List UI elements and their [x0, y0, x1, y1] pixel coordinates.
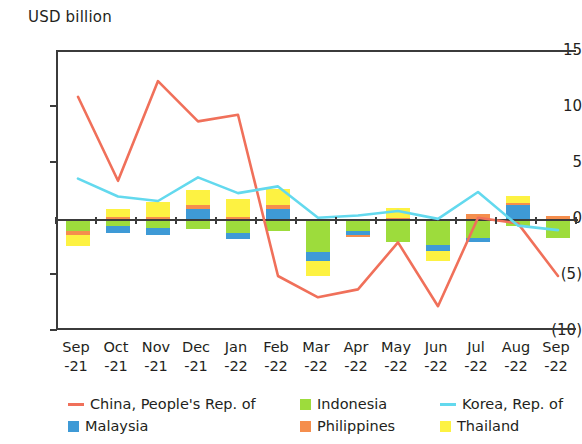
- x-axis-tick-mark: [575, 217, 577, 224]
- x-axis-tick-mark: [375, 217, 377, 224]
- x-axis-tick-month: Jul: [464, 338, 488, 357]
- x-axis-tick-mark: [95, 217, 97, 224]
- x-axis-tick-month: Jan: [224, 338, 248, 357]
- x-axis-tick-label: Jan-22: [224, 338, 248, 376]
- x-axis-tick-month: Jun: [424, 338, 448, 357]
- x-axis-tick-month: Oct: [103, 338, 128, 357]
- x-axis-tick-month: Feb: [263, 338, 289, 357]
- plot-inner: [58, 52, 576, 328]
- legend-item-label: Philippines: [317, 418, 395, 434]
- chart-container: USD billion 151050(5)(10) Sep-21Oct-21No…: [0, 0, 582, 444]
- x-axis-tick-mark: [335, 217, 337, 224]
- legend-item[interactable]: Thailand: [440, 418, 519, 434]
- x-axis-tick-mark: [415, 217, 417, 224]
- x-axis-tick-label: Feb-22: [263, 338, 289, 376]
- x-axis-tick-label: Jun-22: [424, 338, 448, 376]
- x-axis-tick-year: -21: [142, 357, 170, 376]
- x-axis-tick-year: -21: [182, 357, 210, 376]
- legend-box-swatch-icon: [300, 399, 311, 410]
- legend-item[interactable]: Philippines: [300, 418, 395, 434]
- x-axis-tick-year: -21: [62, 357, 89, 376]
- x-axis-tick-month: Sep: [542, 338, 569, 357]
- x-axis-tick-mark: [295, 217, 297, 224]
- x-axis-tick-year: -22: [302, 357, 329, 376]
- legend-line-swatch-icon: [68, 403, 84, 406]
- line-series: [78, 177, 558, 230]
- x-axis-tick-mark: [175, 217, 177, 224]
- x-axis-tick-month: Dec: [182, 338, 210, 357]
- legend-item-label: Korea, Rep. of: [462, 396, 563, 412]
- x-axis-tick-label: Nov-21: [142, 338, 170, 376]
- legend-box-swatch-icon: [300, 421, 311, 432]
- x-axis-tick-label: May-22: [381, 338, 411, 376]
- plot-area: [56, 50, 576, 330]
- x-axis-tick-label: Aug-22: [502, 338, 530, 376]
- x-axis-tick-year: -22: [542, 357, 569, 376]
- x-axis-tick-year: -22: [464, 357, 488, 376]
- x-axis-tick-label: Apr-22: [343, 338, 368, 376]
- legend-item[interactable]: Korea, Rep. of: [440, 396, 563, 412]
- x-axis-tick-year: -21: [103, 357, 128, 376]
- x-axis-tick-label: Jul-22: [464, 338, 488, 376]
- legend-item-label: Thailand: [457, 418, 519, 434]
- line-series: [78, 81, 558, 306]
- x-axis-tick-year: -22: [424, 357, 448, 376]
- chart-legend: China, People's Rep. ofIndonesiaKorea, R…: [0, 396, 582, 444]
- legend-box-swatch-icon: [68, 421, 79, 432]
- x-axis-tick-month: Mar: [302, 338, 329, 357]
- x-axis-tick-label: Oct-21: [103, 338, 128, 376]
- x-axis-tick-mark: [135, 217, 137, 224]
- x-axis-tick-label: Sep-22: [542, 338, 569, 376]
- x-axis-tick-mark: [535, 217, 537, 224]
- x-axis-tick-year: -22: [381, 357, 411, 376]
- line-series-overlay: [58, 52, 578, 332]
- legend-box-swatch-icon: [440, 421, 451, 432]
- legend-line-swatch-icon: [440, 403, 456, 406]
- legend-row: MalaysiaPhilippinesThailand: [0, 418, 582, 440]
- x-axis-tick-label: Sep-21: [62, 338, 89, 376]
- x-axis-tick-mark: [215, 217, 217, 224]
- x-axis-tick-mark: [55, 217, 57, 224]
- x-axis-tick-month: May: [381, 338, 411, 357]
- x-axis-tick-label: Mar-22: [302, 338, 329, 376]
- x-axis-tick-year: -22: [263, 357, 289, 376]
- legend-item[interactable]: Malaysia: [68, 418, 148, 434]
- x-axis-tick-month: Sep: [62, 338, 89, 357]
- x-axis-tick-mark: [455, 217, 457, 224]
- legend-item-label: Indonesia: [317, 396, 387, 412]
- x-axis-tick-month: Nov: [142, 338, 170, 357]
- legend-item-label: China, People's Rep. of: [90, 396, 256, 412]
- legend-item[interactable]: Indonesia: [300, 396, 387, 412]
- x-axis-tick-year: -22: [224, 357, 248, 376]
- x-axis-tick-month: Apr: [343, 338, 368, 357]
- legend-item-label: Malaysia: [85, 418, 148, 434]
- x-axis-tick-mark: [255, 217, 257, 224]
- x-axis-tick-label: Dec-21: [182, 338, 210, 376]
- legend-item[interactable]: China, People's Rep. of: [68, 396, 256, 412]
- x-axis-tick-year: -22: [343, 357, 368, 376]
- x-axis-tick-mark: [495, 217, 497, 224]
- x-axis-tick-month: Aug: [502, 338, 530, 357]
- y-axis-title: USD billion: [28, 8, 112, 26]
- x-axis-tick-year: -22: [502, 357, 530, 376]
- legend-row: China, People's Rep. ofIndonesiaKorea, R…: [0, 396, 582, 418]
